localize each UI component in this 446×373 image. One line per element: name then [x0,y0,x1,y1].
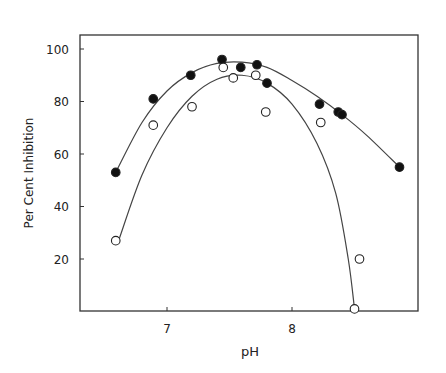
fit-curves [116,62,400,309]
y-tick-label: 40 [54,200,69,214]
open-data-point [229,74,238,83]
filled-data-point [395,163,404,172]
y-tick-label: 100 [46,43,69,57]
x-tick-label: 7 [163,322,171,336]
open-data-point [316,118,325,127]
filled-data-point [186,71,195,80]
x-axis-label: pH [241,344,259,359]
filled-data-point [236,63,245,72]
open-data-point [188,102,197,111]
y-tick-label: 60 [54,148,69,162]
open-data-point [251,71,260,80]
filled-data-point [263,79,272,88]
filled-data-point [111,168,120,177]
y-tick-label: 20 [54,253,69,267]
y-tick-label: 80 [54,95,69,109]
open-data-point [355,255,364,264]
fit-curve [120,75,355,309]
chart: 20406080100 78 pH Per Cent Inhibition [0,0,446,373]
y-axis-label: Per Cent Inhibition [22,118,36,229]
data-points [111,55,403,313]
filled-data-point [149,95,158,104]
x-tick-label: 8 [288,322,296,336]
open-data-point [261,108,270,117]
open-data-point [350,305,359,314]
y-axis-ticks: 20406080100 [46,43,84,267]
filled-data-point [338,110,347,119]
filled-data-point [218,55,227,64]
open-data-point [149,121,158,130]
filled-data-point [253,60,262,69]
open-data-point [111,236,120,245]
open-data-point [219,63,228,72]
filled-data-point [315,100,324,109]
